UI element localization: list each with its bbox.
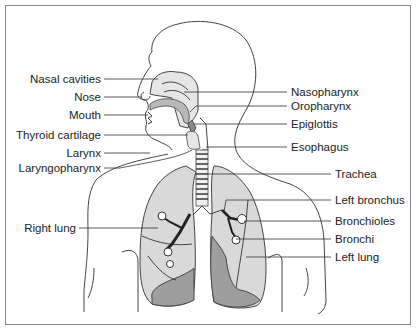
label-mouth: Mouth xyxy=(69,109,101,121)
label-bronchioles: Bronchioles xyxy=(335,215,395,227)
nose xyxy=(141,92,150,100)
label-nose: Nose xyxy=(74,91,101,103)
right-bronchus xyxy=(194,206,202,214)
label-epiglottis: Epiglottis xyxy=(291,118,338,130)
upper-airway xyxy=(141,71,208,150)
label-laryngopharynx: Laryngopharynx xyxy=(19,162,102,174)
label-larynx: Larynx xyxy=(66,147,101,159)
thyroid-cartilage xyxy=(186,131,200,149)
label-esophagus: Esophagus xyxy=(291,141,349,153)
label-right-lung: Right lung xyxy=(24,222,76,234)
label-nasopharynx: Nasopharynx xyxy=(291,86,359,98)
label-nasal-cavities: Nasal cavities xyxy=(30,73,101,85)
label-oropharynx: Oropharynx xyxy=(291,100,351,112)
label-left-bronchus: Left bronchus xyxy=(335,194,405,206)
label-thyroid-cartilage: Thyroid cartilage xyxy=(16,129,101,141)
label-bronchi: Bronchi xyxy=(335,233,374,245)
mouth xyxy=(148,112,152,124)
label-trachea: Trachea xyxy=(335,168,377,180)
label-left-lung: Left lung xyxy=(335,251,379,263)
respiratory-diagram: Nasal cavities Nose Mouth Thyroid cartil… xyxy=(0,0,417,330)
labels-right: Nasopharynx Oropharynx Epiglottis Esopha… xyxy=(291,86,405,263)
esophagus xyxy=(200,118,208,150)
